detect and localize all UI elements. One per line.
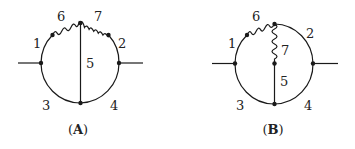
label-1: 1 (228, 36, 236, 51)
vertex (106, 33, 110, 37)
vertex (50, 33, 54, 37)
label-6: 6 (57, 9, 65, 24)
label-4: 4 (110, 98, 118, 113)
vertex (272, 22, 276, 26)
label-3: 3 (42, 98, 50, 113)
vertex (78, 101, 82, 105)
vertex (272, 102, 276, 106)
label-6: 6 (252, 9, 260, 24)
vertex (311, 61, 315, 65)
label-7: 7 (94, 9, 102, 24)
diagram-a (18, 21, 143, 103)
label-2: 2 (118, 36, 126, 51)
vertex (233, 61, 237, 65)
caption-a: (A) (68, 122, 88, 137)
label-2: 2 (306, 26, 314, 41)
label-1: 1 (33, 36, 41, 51)
vertex (245, 33, 249, 37)
propagator-3 (41, 63, 81, 103)
propagator-1 (235, 35, 247, 64)
label-7: 7 (281, 43, 289, 58)
feynman-diagrams-canvas: 1 2 3 4 5 6 7 (A) 1 2 3 4 5 6 7 (B (0, 0, 355, 149)
wavy-propagator-7 (81, 22, 109, 37)
caption-b: (B) (262, 122, 283, 137)
wavy-propagator-6 (247, 24, 275, 35)
label-4: 4 (304, 98, 312, 113)
label-5: 5 (86, 56, 94, 71)
vertex (272, 61, 276, 65)
vertex (117, 61, 121, 65)
vertex (39, 61, 43, 65)
vertex (78, 21, 82, 25)
propagator-1 (41, 35, 53, 63)
label-5: 5 (280, 74, 288, 89)
wavy-propagator-7 (272, 24, 277, 64)
label-3: 3 (236, 98, 244, 113)
diagram-b-labels: 1 2 3 4 5 6 7 (228, 9, 314, 113)
